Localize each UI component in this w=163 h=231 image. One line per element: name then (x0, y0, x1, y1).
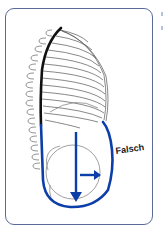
edge-mark (161, 26, 163, 30)
anatomy-diagram (0, 0, 163, 231)
edge-mark (161, 12, 163, 16)
ribcage (42, 30, 108, 128)
downward-arrow-head (70, 192, 82, 202)
